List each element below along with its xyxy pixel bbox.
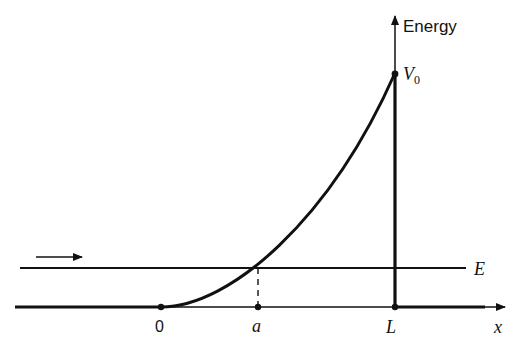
x-axis-label: x [493,317,502,337]
v0-dot [392,71,399,78]
energy-axis-label: Energy [403,17,457,36]
v0-label: V0 [403,64,420,87]
barrier-end-label: L [385,317,396,337]
origin-label: 0 [155,318,164,335]
origin-dot [158,304,164,310]
barrier-end-dot [392,304,398,310]
turning-point-dot [255,304,261,310]
potential-barrier-diagram: Energy V0 E 0 a L x [0,0,524,345]
turning-point-label: a [252,316,261,336]
energy-level-label: E [473,259,485,279]
potential-curve [161,73,395,307]
